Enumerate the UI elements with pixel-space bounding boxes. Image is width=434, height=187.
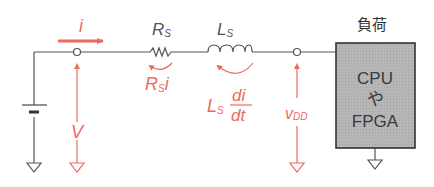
ground-icon-source <box>27 163 41 172</box>
circuit-diagram: i V vDD RS LS RSi LS di dt 負荷 CPU や FPGA <box>0 0 434 187</box>
resistor-icon <box>150 48 172 56</box>
svg-text:LS: LS <box>207 96 224 116</box>
inductor-drop-denominator: dt <box>231 106 246 125</box>
inductor-drop-numerator: di <box>232 86 246 105</box>
load-line-cpu: CPU <box>357 69 393 88</box>
load-line-fpga: FPGA <box>352 112 399 131</box>
battery-icon <box>22 105 47 112</box>
load-title: 負荷 <box>357 16 387 34</box>
node-source <box>74 49 81 56</box>
load-voltage-label: vDD <box>285 105 307 122</box>
inductor-drop-label: LS di dt <box>207 86 252 125</box>
inductor-icon <box>208 45 252 52</box>
inductor-drop-arrow <box>218 63 253 73</box>
source-voltage-label: V <box>71 122 85 142</box>
load-box: 負荷 CPU や FPGA <box>336 16 415 148</box>
current-label: i <box>79 16 84 36</box>
ground-icon-load <box>368 148 382 169</box>
resistor-drop-label: RSi <box>145 74 170 94</box>
node-load <box>294 49 301 56</box>
resistor-label: RS <box>152 20 171 39</box>
source-voltage-arrow <box>70 65 84 172</box>
inductor-label: LS <box>217 20 233 39</box>
load-line-ya: や <box>367 90 384 109</box>
resistor-drop-arrow <box>150 63 172 69</box>
